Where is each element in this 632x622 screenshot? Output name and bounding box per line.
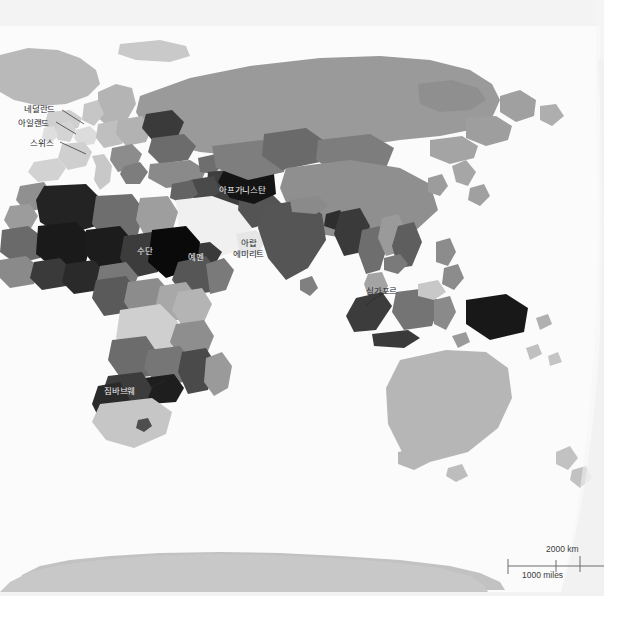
scale-bar-miles-label: 1000 miles: [522, 570, 563, 580]
world-map-graphic: [0, 0, 632, 622]
map-label-ireland: 아일랜드: [18, 118, 49, 128]
map-label-uae-line2: 에미리트: [233, 249, 264, 259]
map-label-singapore: 싱가포르: [366, 286, 397, 296]
map-label-afghanistan: 아프가니스탄: [219, 185, 266, 195]
map-page: 네덜란드 아일랜드 스위스 아프가니스탄 수단 예멘 아랍 에미리트 싱가포르 …: [0, 0, 632, 622]
scale-bar-km-label: 2000 km: [546, 544, 579, 554]
map-label-netherlands: 네덜란드: [24, 104, 55, 114]
map-label-yemen: 예멘: [188, 252, 204, 262]
antarctica-region: [0, 552, 505, 592]
map-label-uae-line1: 아랍: [241, 238, 257, 248]
map-label-sudan: 수단: [137, 246, 153, 256]
scale-bar: 2000 km 1000 miles: [500, 544, 612, 584]
oceania-region: [386, 350, 592, 488]
asia-region: [212, 128, 562, 366]
map-label-zimbabwe: 짐바브웨: [104, 386, 135, 396]
map-label-switzerland: 스위스: [30, 138, 53, 148]
